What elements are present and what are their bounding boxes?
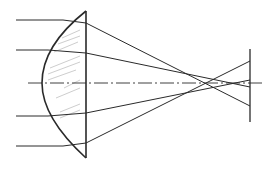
internal-ray-paraxial-top	[48, 50, 86, 53]
lens-curved-face	[42, 11, 86, 158]
spherical-aberration-diagram	[0, 0, 276, 170]
refracted-ray-paraxial-bottom	[86, 80, 250, 113]
refracted-ray-marginal-top	[86, 23, 250, 106]
diagram-canvas: Spherical aberration of a plano-convex l…	[0, 0, 276, 170]
refracted-ray-paraxial-top	[86, 53, 250, 87]
internal-ray-marginal-bottom	[63, 143, 86, 146]
lens-hatching	[48, 30, 80, 118]
refracted-ray-marginal-bottom	[86, 61, 250, 143]
